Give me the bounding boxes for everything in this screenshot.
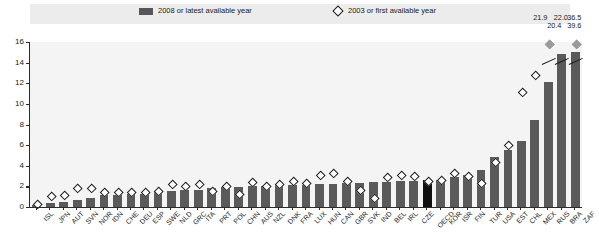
marker-2003-zaf [571, 39, 581, 49]
x-axis-label-esp: ESP [151, 210, 166, 225]
x-axis-label-oecd: OECD [436, 210, 455, 229]
x-axis-label-lux: LUX [312, 210, 327, 225]
x-axis-label-rus: RUS [555, 210, 570, 225]
y-axis-tick-label: 8 [2, 121, 24, 129]
x-axis-label-fra: FRA [299, 210, 314, 225]
y-axis-tick-label: 4 [2, 162, 24, 170]
x-axis-label-che: CHE [124, 210, 139, 225]
bar-irl [396, 181, 405, 207]
x-axis-label-jpn: JPN [57, 210, 71, 224]
x-axis-label-isr: ISR [460, 210, 473, 223]
y-axis-tick-label: 14 [2, 59, 24, 67]
x-axis-label-chl: CHL [528, 210, 543, 225]
bar-grc [180, 190, 189, 208]
y-axis-tick-label: 10 [2, 100, 24, 108]
x-axis-label-swe: SWE [165, 210, 181, 226]
y-axis-tick-label: 2 [2, 182, 24, 190]
y-axis-tick [26, 83, 30, 84]
x-axis-label-aus: AUS [259, 210, 274, 225]
x-axis-label-can: CAN [340, 210, 355, 225]
x-axis-label-idn: IDN [110, 210, 123, 223]
marker-2003-can [329, 169, 339, 179]
marker-2003-jpn [46, 191, 56, 201]
x-axis-label-nld: NLD [178, 210, 193, 225]
marker-2003-mex [531, 71, 541, 81]
legend-bar-swatch-icon [139, 8, 153, 15]
x-axis-label-grc: GRC [192, 210, 208, 226]
x-axis-label-kor: KOR [448, 210, 464, 226]
legend-label-2003: 2003 or first available year [348, 7, 436, 15]
marker-2003-rus [544, 39, 554, 49]
bar-zaf [571, 52, 580, 207]
x-axis-label-svn: SVN [84, 210, 99, 225]
x-axis-label-nzl: NZL [272, 210, 286, 224]
marker-2003-svn [73, 183, 83, 193]
bar-svn [73, 200, 82, 207]
x-axis-label-pol: POL [232, 210, 247, 225]
marker-2003-hun [315, 171, 325, 181]
bar-ita [194, 190, 203, 208]
legend-diamond-swatch-icon [332, 5, 343, 16]
x-axis-label-bel: BEL [393, 210, 407, 224]
y-axis-tick [26, 186, 30, 187]
x-axis-label-usa: USA [501, 210, 516, 225]
bar-hun [315, 184, 324, 207]
bar-mex [530, 120, 539, 207]
bar-est [504, 150, 513, 207]
x-axis-label-mex: MEX [542, 210, 558, 226]
y-axis-tick-label: 12 [2, 79, 24, 87]
x-axis-label-dnk: DNK [286, 210, 301, 225]
x-axis-line [29, 207, 582, 208]
legend-item-2008: 2008 or latest available year [139, 7, 252, 15]
x-axis-label-zaf: ZAF [582, 210, 596, 224]
bar-bra [557, 54, 566, 207]
bar-gbr [342, 183, 351, 207]
bar-aus [248, 186, 257, 207]
x-axis-label-isl: ISL [42, 210, 54, 222]
bar-fra [288, 185, 297, 207]
bar-chl [517, 141, 526, 207]
y-axis-tick-label: 0 [2, 203, 24, 211]
y-axis-tick-label: 6 [2, 141, 24, 149]
x-axis-label-ind: IND [379, 210, 392, 223]
x-axis-label-aut: AUT [70, 210, 85, 225]
x-axis-label-irl: IRL [406, 210, 419, 223]
x-axis-label-ita: ITA [204, 210, 216, 222]
legend-band [30, 4, 570, 24]
y-axis-tick [26, 166, 30, 167]
marker-2003-ita [194, 179, 204, 189]
marker-2003-aut [59, 190, 69, 200]
y-axis-tick [26, 104, 30, 105]
bar-nld [167, 191, 176, 208]
chart-container: 2008 or latest available year 2003 or fi… [0, 0, 599, 244]
plot-inner [30, 42, 582, 207]
marker-2003-isl [32, 200, 42, 210]
x-axis-label-bra: BRA [569, 210, 584, 225]
y-axis-tick [26, 145, 30, 146]
legend-item-2003: 2003 or first available year [333, 7, 436, 15]
y-axis-tick [26, 42, 30, 43]
x-axis-label-prt: PRT [218, 210, 233, 225]
y-axis-tick [26, 63, 30, 64]
y-axis-tick-label: 16 [2, 38, 24, 46]
plot-area [29, 42, 582, 207]
marker-2003-irl [396, 171, 406, 181]
x-axis-label-cze: CZE [420, 210, 435, 225]
legend-label-2008: 2008 or latest available year [158, 7, 252, 15]
marker-2003-chl [517, 87, 527, 97]
axis-break-mark [542, 58, 556, 65]
bar-cze [409, 181, 418, 207]
x-axis-label-gbr: GBR [353, 210, 369, 226]
bar-can [329, 184, 338, 207]
x-axis-label-fin: FIN [473, 210, 486, 223]
bar-bel [382, 182, 391, 207]
y-axis-tick [26, 125, 30, 126]
x-axis-label-chn: CHN [246, 210, 262, 226]
bar-nor [86, 198, 95, 207]
x-axis-label-nor: NOR [98, 210, 114, 226]
marker-2003-nor [86, 183, 96, 193]
x-axis-label-hun: HUN [326, 210, 342, 226]
x-axis-label-svk: SVK [366, 210, 381, 225]
x-axis-label-est: EST [514, 210, 529, 225]
bar-rus [544, 82, 553, 207]
